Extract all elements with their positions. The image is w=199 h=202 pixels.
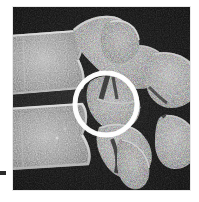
annotation-layer	[13, 7, 190, 190]
radiograph-figure	[0, 0, 199, 202]
highlight-circle-inner-glow	[75, 73, 137, 135]
left-edge-tick-mark	[0, 171, 6, 175]
scan-panel	[13, 7, 190, 190]
